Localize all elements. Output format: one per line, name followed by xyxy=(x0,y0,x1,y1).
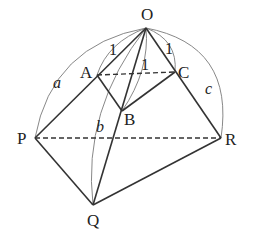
length-or: c xyxy=(205,80,212,97)
label-c: C xyxy=(178,63,189,82)
label-o: O xyxy=(141,5,153,24)
length-oc: 1 xyxy=(165,40,173,57)
length-oq: b xyxy=(96,118,104,135)
edge-qr xyxy=(93,138,221,205)
tetrahedron-diagram: O A B C P Q R 1 1 1 a b c xyxy=(0,0,255,237)
length-op: a xyxy=(53,74,61,91)
edge-ab xyxy=(97,75,122,111)
point-labels: O A B C P Q R xyxy=(17,5,237,230)
length-ob: 1 xyxy=(141,56,149,73)
edge-ac xyxy=(97,72,175,75)
edge-pq xyxy=(35,138,93,205)
label-a: A xyxy=(80,63,93,82)
label-b: B xyxy=(124,110,135,129)
label-p: P xyxy=(17,129,26,148)
label-q: Q xyxy=(87,211,99,230)
length-oa: 1 xyxy=(109,41,117,58)
edge-bc xyxy=(122,72,175,111)
label-r: R xyxy=(225,130,237,149)
